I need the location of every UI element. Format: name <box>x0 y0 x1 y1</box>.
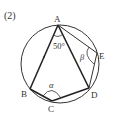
point-label-D: D <box>91 90 98 100</box>
point-label-A: A <box>54 14 61 24</box>
segment-CD <box>52 88 89 101</box>
point-label-E: E <box>99 51 105 61</box>
tick-mark-AB <box>43 56 45 58</box>
angle-arc-A <box>54 35 63 37</box>
problem-number: (2) <box>4 10 16 22</box>
point-label-C: C <box>48 104 54 114</box>
angle-label-beta: β <box>79 52 85 62</box>
inscribed-polygon-diagram: (2) A 50° β E α B C D <box>0 0 114 114</box>
segment-DA <box>58 25 89 88</box>
angle-label-alpha: α <box>49 80 54 90</box>
angle-label-50: 50° <box>53 41 65 51</box>
segment-ED <box>89 53 97 88</box>
point-label-B: B <box>21 89 27 99</box>
